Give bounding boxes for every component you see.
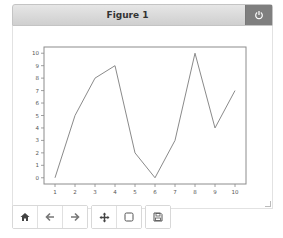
arrow-left-icon <box>45 212 55 222</box>
move-icon <box>99 212 110 223</box>
y-tick-label: 2 <box>36 150 40 156</box>
home-icon <box>20 212 30 222</box>
x-tick-label: 6 <box>153 189 157 195</box>
x-tick-label: 8 <box>193 189 197 195</box>
floppy-disk-icon <box>153 212 163 222</box>
x-tick-label: 10 <box>232 189 239 195</box>
x-tick-label: 9 <box>213 189 217 195</box>
y-tick-label: 6 <box>36 100 40 106</box>
y-tick-label: 10 <box>32 50 39 56</box>
pan-button[interactable] <box>92 206 117 228</box>
resize-handle[interactable] <box>265 201 271 207</box>
y-tick-label: 1 <box>36 162 40 168</box>
line-chart: 01234567891012345678910 <box>13 26 272 208</box>
x-tick-label: 2 <box>73 189 77 195</box>
x-tick-label: 5 <box>133 189 137 195</box>
y-tick-label: 3 <box>36 137 40 143</box>
y-tick-label: 8 <box>36 75 40 81</box>
home-button[interactable] <box>13 206 38 228</box>
x-tick-label: 4 <box>113 189 117 195</box>
y-tick-label: 5 <box>36 113 40 119</box>
power-icon <box>254 10 264 20</box>
figure-canvas[interactable]: 01234567891012345678910 <box>12 26 273 209</box>
y-tick-label: 9 <box>36 63 40 69</box>
x-tick-label: 7 <box>173 189 177 195</box>
zoom-rect-button[interactable] <box>117 206 141 228</box>
figure-title: Figure 1 <box>13 5 242 25</box>
navigation-toolbar <box>12 205 171 229</box>
y-tick-label: 7 <box>36 88 40 94</box>
forward-button[interactable] <box>63 206 87 228</box>
close-figure-button[interactable] <box>245 5 272 25</box>
x-tick-label: 1 <box>53 189 57 195</box>
figure-titlebar: Figure 1 <box>12 4 273 26</box>
x-tick-label: 3 <box>93 189 97 195</box>
y-tick-label: 4 <box>36 125 40 131</box>
plot-frame <box>44 47 246 184</box>
zoom-rect-icon <box>124 212 134 222</box>
arrow-right-icon <box>70 212 80 222</box>
y-tick-label: 0 <box>36 175 40 181</box>
save-button[interactable] <box>146 206 170 228</box>
back-button[interactable] <box>38 206 63 228</box>
